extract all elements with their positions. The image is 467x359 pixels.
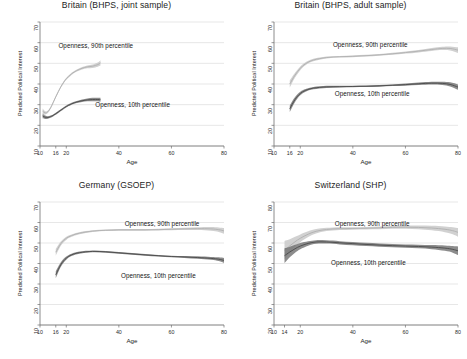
y-tick-label: 40 <box>267 284 273 296</box>
x-axis-label: Age <box>40 337 224 344</box>
x-tick-label: 80 <box>451 329 465 335</box>
panel-0: Britain (BHPS, joint sample) 10203040506… <box>0 0 233 180</box>
confidence-band <box>290 46 458 87</box>
x-axis-label: Age <box>274 158 458 165</box>
series-line <box>290 48 458 84</box>
y-tick-label: 60 <box>33 43 39 55</box>
x-tick-label: 20 <box>293 329 307 335</box>
y-tick-label: 80 <box>267 202 273 214</box>
y-tick-label: 60 <box>267 243 273 255</box>
y-axis-label: Predicted Political Interest <box>17 51 23 116</box>
x-tick-label: 20 <box>59 329 73 335</box>
confidence-band <box>56 227 224 256</box>
annotation-openness-90th: Openness, 90th percentile <box>335 220 410 227</box>
plot-area: 10203040506070101620406080Predicted Poli… <box>234 0 467 180</box>
x-tick-label: 60 <box>398 329 412 335</box>
y-tick-label: 70 <box>267 22 273 34</box>
annotation-openness-10th: Openness, 10th percentile <box>335 90 410 97</box>
y-tick-label: 20 <box>33 305 39 317</box>
y-tick-label: 70 <box>267 223 273 235</box>
x-tick-label: 80 <box>451 150 465 156</box>
y-tick-label: 40 <box>267 84 273 96</box>
x-tick-label: 80 <box>217 150 231 156</box>
y-tick-label: 60 <box>267 43 273 55</box>
annotation-openness-90th: Openness, 90th percentile <box>58 42 133 49</box>
y-tick-label: 30 <box>267 305 273 317</box>
x-tick-label: 40 <box>112 329 126 335</box>
x-tick-label: 10 <box>267 150 281 156</box>
x-axis-label: Age <box>274 337 458 344</box>
x-tick-label: 40 <box>112 150 126 156</box>
y-tick-label: 40 <box>33 264 39 276</box>
y-tick-label: 30 <box>267 105 273 117</box>
x-tick-label: 60 <box>164 150 178 156</box>
y-tick-label: 60 <box>33 223 39 235</box>
annotation-openness-90th: Openness, 90th percentile <box>125 220 200 227</box>
annotation-openness-10th: Openness, 10th percentile <box>121 272 196 279</box>
x-tick-label: 60 <box>398 150 412 156</box>
plot-area: 20304050607080101420406080Predicted Poli… <box>234 180 467 359</box>
y-tick-label: 70 <box>33 22 39 34</box>
y-tick-label: 50 <box>267 63 273 75</box>
confidence-band <box>43 98 101 119</box>
y-axis-label: Predicted Political Interest <box>251 51 257 116</box>
annotation-openness-10th: Openness, 10th percentile <box>95 101 170 108</box>
y-tick-label: 20 <box>267 125 273 137</box>
y-tick-label: 40 <box>33 84 39 96</box>
x-tick-label: 10 <box>33 150 47 156</box>
x-tick-label: 10 <box>33 329 47 335</box>
series-line <box>43 99 101 117</box>
figure-panel-grid: Britain (BHPS, joint sample) 10203040506… <box>0 0 467 359</box>
y-tick-label: 50 <box>33 243 39 255</box>
y-tick-label: 20 <box>33 125 39 137</box>
y-tick-label: 50 <box>267 264 273 276</box>
x-tick-label: 20 <box>293 150 307 156</box>
x-tick-label: 40 <box>346 150 360 156</box>
x-axis-label: Age <box>40 158 224 165</box>
y-tick-label: 70 <box>33 202 39 214</box>
x-tick-label: 40 <box>346 329 360 335</box>
y-tick-label: 30 <box>33 284 39 296</box>
panel-1: Britain (BHPS, adult sample) 10203040506… <box>234 0 467 180</box>
y-tick-label: 50 <box>33 63 39 75</box>
x-tick-label: 20 <box>59 150 73 156</box>
annotation-openness-90th: Openness, 90th percentile <box>333 41 408 48</box>
y-axis-label: Predicted Political Interest <box>251 230 257 295</box>
x-tick-label: 80 <box>217 329 231 335</box>
y-tick-label: 30 <box>33 105 39 117</box>
series-line <box>43 63 101 113</box>
panel-3: Switzerland (SHP) 2030405060708010142040… <box>234 180 467 359</box>
panel-2: Germany (GSOEP) 102030405060701016204060… <box>0 180 233 359</box>
annotation-openness-10th: Openness, 10th percentile <box>331 259 406 266</box>
x-tick-label: 60 <box>164 329 178 335</box>
plot-area: 10203040506070101620406080Predicted Poli… <box>0 0 233 180</box>
x-tick-label: 14 <box>278 329 292 335</box>
y-axis-label: Predicted Political Interest <box>17 230 23 295</box>
plot-area: 10203040506070101620406080Predicted Poli… <box>0 180 233 359</box>
